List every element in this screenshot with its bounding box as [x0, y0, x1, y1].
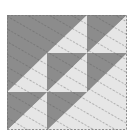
quilt-block: [0, 0, 131, 132]
quilt-block-image: [0, 0, 131, 132]
quilting-stitches: [7, 15, 127, 130]
